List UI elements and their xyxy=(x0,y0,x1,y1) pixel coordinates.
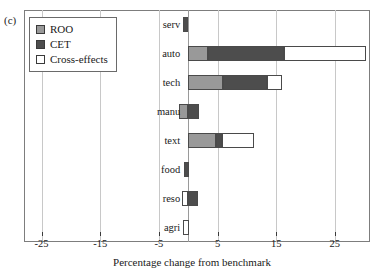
category-label-manu: manu xyxy=(130,106,180,117)
bar-row xyxy=(24,97,370,126)
bar-segment-text-roo xyxy=(188,133,216,148)
tick--25 xyxy=(42,232,43,236)
bar-row xyxy=(24,155,370,184)
bar-segment-tech-cet xyxy=(223,75,266,90)
tick-label--15: -15 xyxy=(93,238,107,249)
category-label-food: food xyxy=(130,164,180,175)
bar-segment-tech-cross-effects xyxy=(267,75,282,90)
category-label-text: text xyxy=(130,135,180,146)
legend-item-cross-effects: Cross-effects xyxy=(36,52,108,67)
bar-segment-auto-roo xyxy=(188,46,207,61)
bar-row xyxy=(24,184,370,213)
category-label-reso: reso xyxy=(130,193,180,204)
legend-item-roo: ROO xyxy=(36,22,108,37)
bar-segment-manu-cet xyxy=(188,104,199,119)
tick--5 xyxy=(159,232,160,236)
legend-item-cet: CET xyxy=(36,37,108,52)
bar-row xyxy=(24,126,370,155)
legend-swatch-icon xyxy=(36,40,45,49)
bar-segment-auto-cross-effects xyxy=(284,46,366,61)
tick-15 xyxy=(276,232,277,236)
bar-segment-agri-cross-effects xyxy=(183,220,189,235)
tick-5 xyxy=(218,232,219,236)
figure-panel-c: (c) servautotechmanutextfoodresoagri -25… xyxy=(0,0,384,276)
tick-label--25: -25 xyxy=(35,238,49,249)
category-label-serv: serv xyxy=(130,19,180,30)
category-label-auto: auto xyxy=(130,48,180,59)
category-label-agri: agri xyxy=(130,222,180,233)
bar-segment-serv-cet xyxy=(183,17,188,32)
category-label-tech: tech xyxy=(130,77,180,88)
legend-label: ROO xyxy=(50,24,73,35)
bar-row xyxy=(24,68,370,97)
x-axis-title: Percentage change from benchmark xyxy=(0,256,384,268)
bar-segment-auto-cet xyxy=(208,46,285,61)
bar-row xyxy=(24,213,370,242)
legend-swatch-icon xyxy=(36,25,45,34)
legend: ROOCETCross-effects xyxy=(29,17,117,72)
tick-25 xyxy=(335,232,336,236)
bar-segment-reso-cet xyxy=(188,191,197,206)
panel-label: (c) xyxy=(4,14,16,26)
bar-segment-manu-roo xyxy=(179,104,188,119)
bar-segment-food-cet xyxy=(184,162,190,177)
legend-swatch-icon xyxy=(36,55,45,64)
tick--15 xyxy=(100,232,101,236)
tick-label--5: -5 xyxy=(155,238,164,249)
bar-segment-tech-roo xyxy=(188,75,223,90)
legend-label: Cross-effects xyxy=(50,54,108,65)
tick-label-5: 5 xyxy=(215,238,220,249)
tick-label-15: 15 xyxy=(271,238,282,249)
tick-label-25: 25 xyxy=(330,238,341,249)
legend-label: CET xyxy=(50,39,71,50)
bar-segment-text-cross-effects xyxy=(222,133,254,148)
